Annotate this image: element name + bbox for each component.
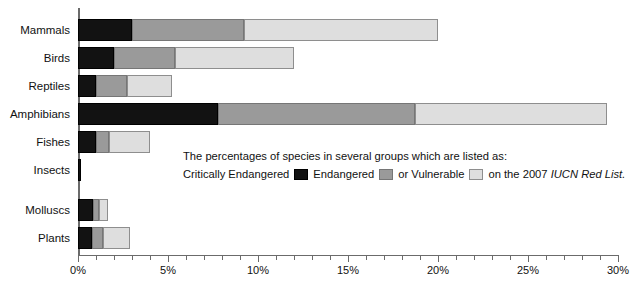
legend-swatch-endangered — [379, 169, 393, 180]
x-tick — [456, 255, 457, 260]
x-tick — [366, 255, 367, 260]
x-tick — [474, 255, 475, 260]
bar-segment-vulnerable — [99, 199, 108, 221]
bar-segment-critically-endangered — [78, 227, 92, 249]
legend-swatch-critically-endangered — [294, 169, 308, 180]
x-tick — [564, 255, 565, 260]
x-tick — [114, 255, 115, 260]
legend-label-critically-endangered: Critically Endangered — [183, 166, 289, 183]
x-tick-label: 15% — [337, 264, 359, 276]
x-tick — [510, 255, 511, 260]
stacked-bar — [78, 227, 130, 249]
x-tick — [402, 255, 403, 260]
legend-label-endangered: Endangered — [313, 166, 374, 183]
x-tick — [222, 255, 223, 260]
x-tick — [330, 255, 331, 260]
bar-segment-endangered — [218, 103, 414, 125]
bar-segment-vulnerable — [244, 19, 438, 41]
bar-segment-critically-endangered — [78, 19, 132, 41]
x-tick — [258, 255, 259, 262]
legend-series-line: Critically Endangered Endangered or Vuln… — [183, 166, 625, 183]
x-tick — [204, 255, 205, 260]
legend-source-title: IUCN Red List. — [551, 168, 626, 180]
x-tick — [582, 255, 583, 260]
x-tick — [600, 255, 601, 260]
category-label-mammals: Mammals — [0, 19, 70, 41]
x-tick — [276, 255, 277, 260]
x-tick — [240, 255, 241, 260]
bar-segment-endangered — [114, 47, 175, 69]
legend-caption-line: The percentages of species in several gr… — [183, 148, 625, 165]
x-tick-label: 30% — [607, 264, 629, 276]
x-tick — [186, 255, 187, 260]
category-label-insects: Insects — [0, 159, 70, 181]
x-tick-label: 10% — [247, 264, 269, 276]
bar-segment-endangered — [132, 19, 244, 41]
bar-segment-critically-endangered — [78, 103, 218, 125]
x-tick — [528, 255, 529, 262]
x-tick — [618, 255, 619, 262]
bar-segment-vulnerable — [175, 47, 294, 69]
x-tick-label: 5% — [160, 264, 176, 276]
x-tick — [78, 255, 79, 262]
x-tick — [492, 255, 493, 260]
x-tick-label: 0% — [70, 264, 86, 276]
x-tick-label: 25% — [517, 264, 539, 276]
bar-segment-vulnerable — [103, 227, 130, 249]
plot-area: MammalsBirdsReptilesAmphibiansFishesInse… — [78, 8, 618, 251]
bar-segment-critically-endangered — [78, 159, 81, 181]
chart-legend: The percentages of species in several gr… — [183, 148, 625, 183]
stacked-bar — [78, 103, 607, 125]
stacked-bar — [78, 199, 108, 221]
stacked-bar — [78, 159, 81, 181]
legend-source-prefix: on the 2007 — [488, 168, 550, 180]
bar-segment-critically-endangered — [78, 199, 93, 221]
chart-container: MammalsBirdsReptilesAmphibiansFishesInse… — [0, 0, 631, 284]
category-label-plants: Plants — [0, 227, 70, 249]
category-label-birds: Birds — [0, 47, 70, 69]
x-tick — [132, 255, 133, 260]
stacked-bar — [78, 47, 294, 69]
x-tick — [312, 255, 313, 260]
stacked-bar — [78, 131, 150, 153]
stacked-bar — [78, 19, 438, 41]
stacked-bar — [78, 75, 172, 97]
x-tick — [438, 255, 439, 262]
x-tick — [150, 255, 151, 260]
legend-swatch-vulnerable — [469, 169, 483, 180]
bar-segment-vulnerable — [415, 103, 608, 125]
x-tick — [294, 255, 295, 260]
bar-segment-vulnerable — [109, 131, 150, 153]
bar-segment-endangered — [92, 227, 103, 249]
legend-label-source: on the 2007 IUCN Red List. — [488, 166, 625, 183]
x-tick — [348, 255, 349, 262]
x-tick — [96, 255, 97, 260]
bar-segment-critically-endangered — [78, 47, 114, 69]
bar-segment-endangered — [96, 131, 109, 153]
bar-segment-endangered — [96, 75, 127, 97]
category-label-amphibians: Amphibians — [0, 103, 70, 125]
x-tick — [168, 255, 169, 262]
bar-segment-vulnerable — [127, 75, 172, 97]
bar-segment-critically-endangered — [78, 75, 96, 97]
x-tick — [546, 255, 547, 260]
x-tick — [384, 255, 385, 260]
x-tick-label: 20% — [427, 264, 449, 276]
category-label-molluscs: Molluscs — [0, 199, 70, 221]
category-label-reptiles: Reptiles — [0, 75, 70, 97]
bar-segment-critically-endangered — [78, 131, 96, 153]
legend-label-vulnerable: or Vulnerable — [398, 166, 464, 183]
x-tick — [420, 255, 421, 260]
category-label-fishes: Fishes — [0, 131, 70, 153]
